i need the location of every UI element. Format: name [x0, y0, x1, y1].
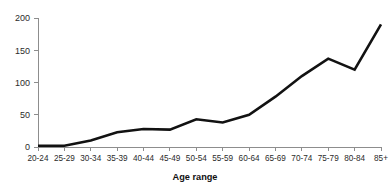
x-axis-tick-label: 55-59	[212, 154, 233, 163]
x-axis-tick-label: 45-49	[159, 154, 180, 163]
y-axis-tick-label: 0	[25, 142, 30, 152]
x-axis-tick-label: 20-24	[28, 154, 49, 163]
x-axis-tick-label: 50-54	[186, 154, 207, 163]
x-axis-tick-label: 25-29	[54, 154, 75, 163]
y-axis-tick-label: 50	[20, 110, 30, 120]
chart-plot-area: 050100150200 20-2425-2930-3435-3940-4445…	[0, 0, 390, 188]
x-axis-tick-label: 85+	[374, 154, 388, 163]
x-axis-title: Age range	[173, 172, 218, 182]
x-axis-tick-label: 35-39	[107, 154, 128, 163]
x-axis-tick-label: 80-84	[344, 154, 365, 163]
y-axis-tick-label: 100	[15, 78, 30, 88]
x-axis-tick-label: 30-34	[80, 154, 101, 163]
x-axis-tick-label: 75-79	[318, 154, 339, 163]
x-axis-tick-label: 40-44	[133, 154, 154, 163]
y-axis-tick-label: 200	[15, 13, 30, 23]
x-axis-tick-label: 65-69	[265, 154, 286, 163]
y-axis-tick-label: 150	[15, 46, 30, 56]
x-axis-tick-label: 60-64	[239, 154, 260, 163]
x-axis-tick-label: 70-74	[291, 154, 312, 163]
line-chart-figure: 050100150200 20-2425-2930-3435-3940-4445…	[0, 0, 390, 188]
